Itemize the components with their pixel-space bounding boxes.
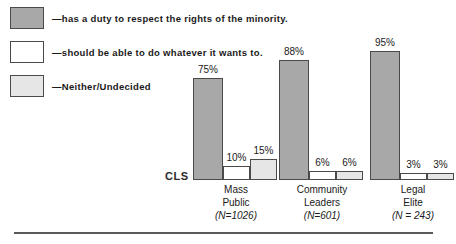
group-sample-size-mass-public: (N=1026) [193, 209, 279, 222]
bar-value-legal-elite-neither: 3% [433, 159, 447, 170]
bar-value-community-leaders-whatever: 6% [315, 157, 329, 168]
bar-value-legal-elite-whatever: 3% [406, 159, 420, 170]
group-label-line2-legal-elite: Elite [370, 196, 456, 209]
group-sample-size-community-leaders: (N=601) [279, 209, 365, 222]
bar-value-community-leaders-neither: 6% [342, 157, 356, 168]
bar-mass-public-whatever: 10% [223, 166, 250, 180]
group-label-line1-legal-elite: Legal [370, 183, 456, 196]
bar-mass-public-duty: 75% [193, 78, 223, 180]
bar-community-leaders-duty: 88% [279, 60, 309, 180]
bar-value-mass-public-duty: 75% [198, 64, 218, 75]
bar-value-mass-public-neither: 15% [253, 145, 273, 156]
bar-value-mass-public-whatever: 10% [226, 152, 246, 163]
group-caption-legal-elite: Legal Elite (N = 243) [370, 183, 456, 222]
bar-community-leaders-whatever: 6% [309, 171, 336, 180]
bottom-divider [14, 232, 433, 234]
group-caption-mass-public: Mass Public (N=1026) [193, 183, 279, 222]
group-label-line1-mass-public: Mass [193, 183, 279, 196]
baseline-label-cls: CLS [165, 170, 189, 182]
group-label-line1-community-leaders: Community [279, 183, 365, 196]
bar-legal-elite-whatever: 3% [400, 173, 427, 180]
group-label-line2-community-leaders: Leaders [279, 196, 365, 209]
bar-group-mass-public: 75% 10% 15% Mass Public (N=1026) [193, 0, 279, 244]
group-label-line2-mass-public: Public [193, 196, 279, 209]
bar-legal-elite-duty: 95% [370, 51, 400, 180]
group-caption-community-leaders: Community Leaders (N=601) [279, 183, 365, 222]
bars-legal-elite: 95% 3% 3% [370, 51, 454, 180]
bar-group-community-leaders: 88% 6% 6% Community Leaders (N=601) [279, 0, 365, 244]
bar-community-leaders-neither: 6% [336, 171, 363, 180]
group-sample-size-legal-elite: (N = 243) [370, 209, 456, 222]
bar-value-legal-elite-duty: 95% [375, 37, 395, 48]
bar-group-legal-elite: 95% 3% 3% Legal Elite (N = 243) [370, 0, 456, 244]
bars-community-leaders: 88% 6% 6% [279, 60, 363, 180]
bar-legal-elite-neither: 3% [427, 173, 454, 180]
bar-value-community-leaders-duty: 88% [284, 46, 304, 57]
bar-mass-public-neither: 15% [250, 159, 277, 180]
bars-mass-public: 75% 10% 15% [193, 78, 277, 180]
